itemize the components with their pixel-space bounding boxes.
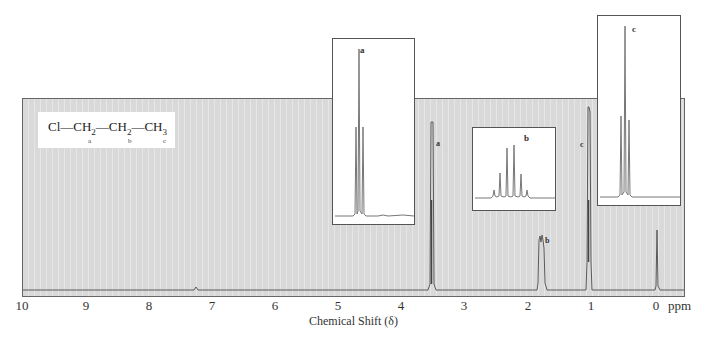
- x-tick-4: 4: [398, 298, 405, 314]
- x-tick-7: 7: [209, 298, 216, 314]
- x-tick-1: 1: [588, 298, 595, 314]
- inset-b-sextet: b: [472, 127, 556, 211]
- x-tick-3: 3: [461, 298, 468, 314]
- molecule-formula: Cl—CH2—CH2—CH3: [48, 119, 167, 137]
- x-tick-10: 10: [16, 298, 29, 314]
- proton-label-a: a: [88, 137, 91, 145]
- proton-label-b: b: [128, 137, 132, 145]
- inset-label-a: a: [360, 45, 365, 55]
- inset-a-triplet: a: [332, 38, 415, 225]
- x-tick-0: 0: [653, 298, 660, 314]
- proton-label-c: c: [163, 137, 166, 145]
- x-tick-8: 8: [146, 298, 153, 314]
- x-tick-9: 9: [83, 298, 90, 314]
- x-axis-title: Chemical Shift (δ): [309, 314, 398, 329]
- x-tick-2: 2: [525, 298, 532, 314]
- x-tick-5: 5: [335, 298, 342, 314]
- peak-label-a: a: [436, 139, 440, 148]
- x-axis-unit: ppm: [668, 298, 691, 314]
- inset-label-c: c: [632, 24, 636, 34]
- inset-label-b: b: [524, 133, 529, 143]
- peak-label-b: b: [545, 236, 549, 245]
- molecule-structure-label: Cl—CH2—CH2—CH3 a b c: [38, 112, 175, 148]
- inset-c-triplet: c: [597, 15, 681, 206]
- peak-label-c: c: [580, 140, 584, 149]
- x-tick-6: 6: [272, 298, 279, 314]
